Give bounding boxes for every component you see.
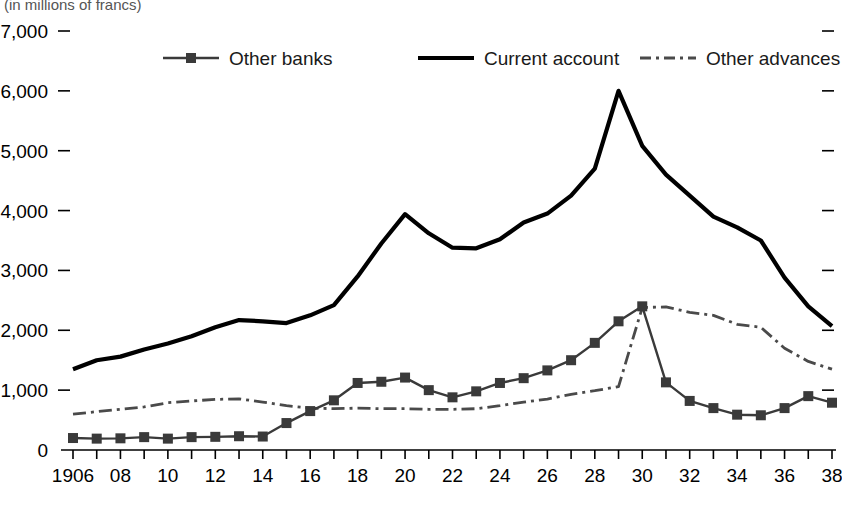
data-point-marker [566, 355, 576, 365]
x-axis-tick-label: 24 [489, 465, 511, 486]
data-point-marker [424, 385, 434, 395]
x-axis-tick-label: 08 [110, 465, 131, 486]
y-axis-tick-label: 2,000 [0, 320, 48, 341]
chart-background [0, 0, 842, 507]
data-point-marker [780, 403, 790, 413]
x-axis-tick-label: 30 [632, 465, 653, 486]
data-point-marker [803, 391, 813, 401]
data-point-marker [708, 403, 718, 413]
data-point-marker [210, 432, 220, 442]
x-axis-tick-label: 16 [300, 465, 321, 486]
x-axis-tick-label: 1906 [52, 465, 94, 486]
y-axis-tick-label: 3,000 [0, 260, 48, 281]
data-point-marker [542, 365, 552, 375]
y-axis-tick-label: 6,000 [0, 81, 48, 102]
data-point-marker [329, 395, 339, 405]
y-axis-tick-label: 1,000 [0, 380, 48, 401]
data-point-marker [234, 431, 244, 441]
data-point-marker [376, 377, 386, 387]
x-axis-tick-label: 22 [442, 465, 463, 486]
data-point-marker [353, 378, 363, 388]
data-point-marker [448, 392, 458, 402]
legend-label: Current account [484, 48, 620, 69]
data-point-marker [281, 418, 291, 428]
data-point-marker [637, 301, 647, 311]
data-point-marker [590, 338, 600, 348]
line-chart-figure: (in millions of francs) 01,0002,0003,000… [0, 0, 842, 507]
units-note: (in millions of francs) [4, 0, 142, 13]
data-point-marker [614, 316, 624, 326]
data-point-marker [519, 373, 529, 383]
data-point-marker [163, 434, 173, 444]
data-point-marker [495, 378, 505, 388]
data-point-marker [732, 410, 742, 420]
legend-label: Other advances [706, 48, 840, 69]
chart-legend: Other banksCurrent accountOther advances [163, 48, 840, 69]
legend-marker-swatch [186, 53, 196, 63]
data-point-marker [92, 434, 102, 444]
x-axis-tick-label: 28 [584, 465, 605, 486]
x-axis-tick-label: 36 [774, 465, 795, 486]
data-point-marker [471, 386, 481, 396]
x-axis-tick-label: 34 [727, 465, 749, 486]
data-point-marker [258, 432, 268, 442]
data-point-marker [685, 396, 695, 406]
data-point-marker [305, 406, 315, 416]
data-point-marker [187, 432, 197, 442]
data-point-marker [139, 432, 149, 442]
data-point-marker [827, 398, 837, 408]
y-axis-tick-label: 5,000 [0, 141, 48, 162]
data-point-marker [400, 373, 410, 383]
x-axis-tick-label: 18 [347, 465, 368, 486]
x-axis-tick-label: 20 [394, 465, 415, 486]
data-point-marker [115, 433, 125, 443]
chart-container: (in millions of francs) 01,0002,0003,000… [0, 0, 842, 507]
x-axis-tick-label: 32 [679, 465, 700, 486]
x-axis-tick-label: 12 [205, 465, 226, 486]
data-point-marker [68, 433, 78, 443]
data-point-marker [756, 410, 766, 420]
legend-label: Other banks [229, 48, 333, 69]
y-axis-tick-label: 7,000 [0, 21, 48, 42]
y-axis-tick-label: 4,000 [0, 201, 48, 222]
data-point-marker [661, 377, 671, 387]
x-axis-tick-label: 14 [252, 465, 274, 486]
x-axis-tick-label: 10 [157, 465, 178, 486]
y-axis-tick-label: 0 [37, 440, 48, 461]
x-axis-tick-label: 38 [821, 465, 842, 486]
x-axis-tick-label: 26 [537, 465, 558, 486]
